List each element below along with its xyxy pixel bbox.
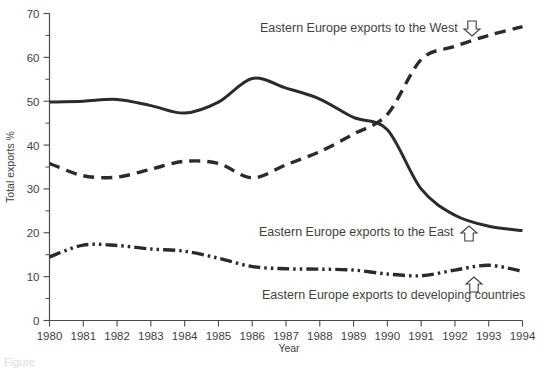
y-tick-label: 50 xyxy=(27,96,40,108)
y-tick-label: 20 xyxy=(27,227,40,239)
x-tick-label: 1983 xyxy=(138,330,164,342)
y-tick-label: 30 xyxy=(27,183,40,195)
x-tick-label: 1982 xyxy=(104,330,130,342)
annotation-label-west: Eastern Europe exports to the West xyxy=(260,21,458,35)
x-tick-label: 1991 xyxy=(408,330,434,342)
x-tick-label: 1986 xyxy=(239,330,265,342)
x-tick-label: 1992 xyxy=(442,330,468,342)
y-tick-label: 60 xyxy=(27,52,40,64)
annotation-label-east: Eastern Europe exports to the East xyxy=(259,225,454,239)
y-tick-label: 10 xyxy=(27,271,40,283)
figure-caption-text: Figure xyxy=(4,356,35,368)
x-tick-label: 1993 xyxy=(476,330,502,342)
x-tick-label: 1980 xyxy=(37,330,63,342)
figure-caption: Figure xyxy=(4,356,35,368)
annotation-label-developing: Eastern Europe exports to developing cou… xyxy=(262,288,525,302)
x-tick-label: 1988 xyxy=(307,330,333,342)
x-tick-label: 1981 xyxy=(70,330,96,342)
x-tick-label: 1985 xyxy=(206,330,232,342)
y-axis-title: Total exports % xyxy=(4,131,16,203)
chart-background xyxy=(0,0,551,369)
y-tick-label: 0 xyxy=(33,315,39,327)
y-tick-label: 40 xyxy=(27,140,40,152)
x-tick-label: 1990 xyxy=(375,330,401,342)
x-tick-label: 1984 xyxy=(172,330,198,342)
y-tick-label: 70 xyxy=(27,8,40,20)
chart-figure: 010203040506070 198019811982198319841985… xyxy=(0,0,551,369)
exports-line-chart: 010203040506070 198019811982198319841985… xyxy=(0,0,551,369)
x-tick-label: 1994 xyxy=(510,330,536,342)
x-tick-label: 1989 xyxy=(341,330,367,342)
x-axis-title: Year xyxy=(278,342,300,354)
x-tick-label: 1987 xyxy=(273,330,299,342)
